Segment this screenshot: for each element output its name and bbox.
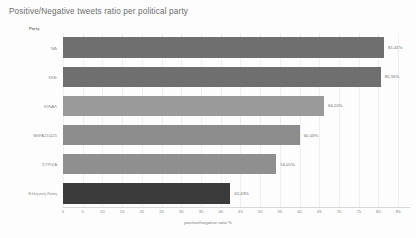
x-axis-tick-label: 35 bbox=[199, 209, 204, 214]
x-axis-tick-label: 5 bbox=[82, 209, 84, 214]
x-axis-tick-label: 40 bbox=[218, 209, 223, 214]
x-axis-tick-label: 55 bbox=[278, 209, 283, 214]
x-axis-tick-label: 15 bbox=[120, 209, 125, 214]
bar[interactable] bbox=[63, 154, 276, 174]
chart-title: Positive/Negative tweets ratio per polit… bbox=[9, 7, 188, 16]
bar-value-label: 42,43% bbox=[234, 191, 249, 196]
x-axis-tick-label: 45 bbox=[238, 209, 243, 214]
bar-row: 54,05% bbox=[63, 154, 410, 174]
chart-container: Positive/Negative tweets ratio per polit… bbox=[0, 0, 416, 238]
x-axis-tick-label: 75 bbox=[356, 209, 361, 214]
bar-value-label: 80,56% bbox=[385, 74, 400, 79]
bar-value-label: 60,03% bbox=[304, 133, 319, 138]
bar-value-label: 66,20% bbox=[328, 103, 343, 108]
bar-row: 81,41% bbox=[63, 37, 410, 57]
bar[interactable] bbox=[63, 37, 384, 57]
x-axis-line bbox=[63, 207, 410, 208]
y-axis-tick-labels: ΝΔΚΚΕΚΙΝΑΛΜέΡΑ21Ω25ΣΥΡΙΖΑΕλληνική Λύση bbox=[0, 33, 61, 208]
x-axis-tick-label: 65 bbox=[317, 209, 322, 214]
bar-row: 80,56% bbox=[63, 67, 410, 87]
bar[interactable] bbox=[63, 96, 324, 116]
bar[interactable] bbox=[63, 125, 300, 145]
x-axis-title: positive/negative ratio % bbox=[0, 220, 416, 225]
y-axis-title: Party bbox=[29, 26, 39, 31]
x-axis-tick-label: 0 bbox=[62, 209, 64, 214]
bar-series: 81,41%80,56%66,20%60,03%54,05%42,43% bbox=[63, 33, 410, 208]
y-axis-tick-label: ΚΙΝΑΛ bbox=[44, 103, 57, 108]
y-axis-tick-label: ΚΚΕ bbox=[48, 74, 57, 79]
bar-value-label: 54,05% bbox=[280, 162, 295, 167]
x-axis-tick-label: 60 bbox=[297, 209, 302, 214]
x-axis-tick-label: 20 bbox=[140, 209, 145, 214]
x-axis-tick-label: 10 bbox=[100, 209, 105, 214]
x-axis-tick-label: 25 bbox=[159, 209, 164, 214]
plot-area: 81,41%80,56%66,20%60,03%54,05%42,43% bbox=[63, 33, 410, 208]
y-axis-tick-label: ΣΥΡΙΖΑ bbox=[42, 162, 57, 167]
bar-row: 66,20% bbox=[63, 96, 410, 116]
x-axis-tick-label: 70 bbox=[337, 209, 342, 214]
x-axis-tick-label: 50 bbox=[258, 209, 263, 214]
y-axis-tick-label: ΝΔ bbox=[51, 45, 57, 50]
x-axis-tick-label: 80 bbox=[376, 209, 381, 214]
bar-value-label: 81,41% bbox=[388, 45, 403, 50]
x-axis-tick-label: 30 bbox=[179, 209, 184, 214]
bar-row: 42,43% bbox=[63, 183, 410, 203]
bar[interactable] bbox=[63, 67, 381, 87]
bar[interactable] bbox=[63, 183, 230, 203]
bar-row: 60,03% bbox=[63, 125, 410, 145]
y-axis-tick-label: Ελληνική Λύση bbox=[29, 191, 57, 196]
x-axis-tick-label: 85 bbox=[396, 209, 401, 214]
y-axis-tick-label: ΜέΡΑ21Ω25 bbox=[33, 133, 57, 138]
